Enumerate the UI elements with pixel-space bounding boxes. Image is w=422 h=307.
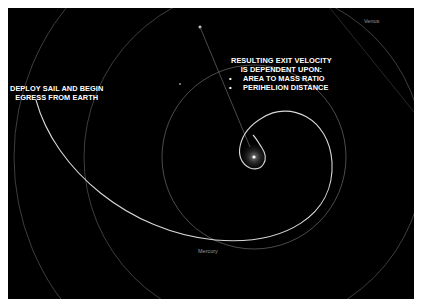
orbit-diagram [8, 8, 414, 299]
exit-velocity-factors: AREA TO MASS RATIO PERIHELION DISTANCE [229, 74, 332, 92]
exit-velocity-line-2: IS DEPENDENT UPON: [231, 65, 332, 74]
diagram-frame: DEPLOY SAIL AND BEGIN EGRESS FROM EARTH … [8, 8, 414, 299]
deploy-line-1: DEPLOY SAIL AND BEGIN [10, 84, 103, 93]
factor-area-to-mass: AREA TO MASS RATIO [229, 74, 332, 83]
exit-velocity-line-1: RESULTING EXIT VELOCITY [231, 56, 332, 65]
planet-dot-icon [179, 83, 181, 85]
deploy-line-2: EGRESS FROM EARTH [10, 93, 103, 102]
sail-trajectory [36, 100, 332, 241]
outer-orbit [8, 8, 414, 299]
deploy-annotation: DEPLOY SAIL AND BEGIN EGRESS FROM EARTH [10, 84, 103, 102]
exit-velocity-annotation: RESULTING EXIT VELOCITY IS DEPENDENT UPO… [231, 56, 332, 92]
venus-label: Venus [364, 18, 379, 24]
earth-orbit [14, 8, 414, 299]
factor-perihelion: PERIHELION DISTANCE [229, 83, 332, 92]
sun-icon [252, 155, 255, 158]
mercury-label: Mercury [198, 248, 218, 254]
